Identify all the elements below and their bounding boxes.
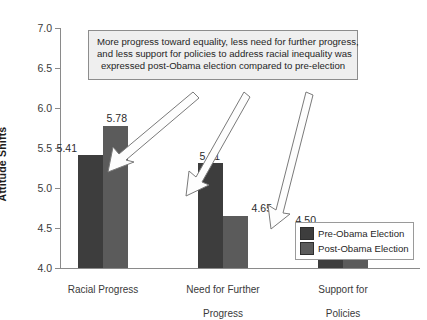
y-tick-label: 5.5 [37, 142, 52, 154]
legend-label: Pre-Obama Election [318, 228, 404, 239]
y-tick-label: 5.0 [37, 182, 52, 194]
x-category-label-need-further-progress: Need for Further Progress [171, 272, 275, 320]
bar-need-further-progress-post [223, 216, 248, 268]
bar-racial-progress-pre [78, 155, 103, 268]
callout-line-2: and less support for policies to address… [97, 48, 349, 60]
bar-racial-progress-post [103, 126, 128, 268]
y-tick-label: 6.0 [37, 102, 52, 114]
bar-value-label: 5.31 [200, 150, 220, 162]
x-axis-line [60, 268, 420, 269]
y-tick-label: 4.5 [37, 222, 52, 234]
legend-item-pre-obama: Pre-Obama Election [300, 226, 409, 241]
cat-line-1: Racial Progress [68, 284, 139, 295]
bar-value-label: 5.78 [107, 112, 127, 124]
callout-annotation: More progress toward equality, less need… [88, 30, 358, 80]
legend-label: Post-Obama Election [318, 243, 409, 254]
legend-swatch-icon [300, 242, 314, 255]
bar-value-label: 5.41 [57, 142, 77, 154]
callout-line-3: expressed post-Obama election compared t… [97, 60, 349, 72]
y-axis-label: Attitude Shifts [0, 127, 8, 202]
y-tick-label: 4.0 [37, 262, 52, 274]
y-tick-label: 7.0 [37, 22, 52, 34]
callout-line-1: More progress toward equality, less need… [97, 36, 349, 48]
legend-item-post-obama: Post-Obama Election [300, 241, 409, 256]
bar-need-further-progress-pre [198, 163, 223, 268]
x-category-label-support-policies: Support for Policies [291, 272, 395, 320]
legend-swatch-icon [300, 227, 314, 240]
cat-line-2: Policies [326, 308, 360, 319]
y-tick-label: 6.5 [37, 62, 52, 74]
cat-line-2: Progress [203, 308, 243, 319]
cat-line-1: Support for [318, 284, 367, 295]
legend: Pre-Obama Election Post-Obama Election [295, 222, 414, 260]
bar-value-label: 4.65 [252, 202, 272, 214]
cat-line-1: Need for Further [186, 284, 259, 295]
x-category-label-racial-progress: Racial Progress [51, 272, 155, 296]
